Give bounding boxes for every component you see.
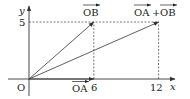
vector-label-OA: OA	[72, 82, 89, 95]
origin-label: O	[17, 82, 25, 93]
x-axis-label: x	[170, 81, 176, 92]
vector-diagram: y x O 5 6 12 OA OB OA + OB	[0, 0, 190, 99]
svg-text:OB: OB	[83, 7, 99, 18]
svg-text:OA: OA	[72, 83, 88, 94]
vector-label-OB: OB	[83, 5, 100, 18]
x-tick-label-12: 12	[150, 82, 163, 93]
svg-text:OA: OA	[134, 7, 150, 18]
svg-text:OB: OB	[160, 7, 176, 18]
y-axis-label: y	[18, 5, 25, 16]
x-tick-label-6: 6	[91, 82, 97, 93]
vector-OB	[29, 22, 94, 79]
vector-label-OA-plus-OB: OA + OB	[134, 5, 177, 18]
y-tick-label-5: 5	[19, 17, 25, 28]
